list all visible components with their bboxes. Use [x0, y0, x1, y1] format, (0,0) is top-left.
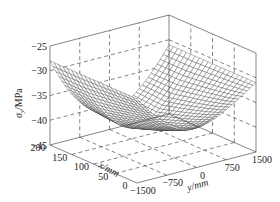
y-axis-label: y/mm — [185, 176, 210, 193]
tick-label: −30 — [31, 65, 47, 76]
tick-label: 150 — [52, 152, 67, 163]
surface-plot: −25−30−35−40−45050100150200−1500−7500750… — [0, 0, 280, 202]
tick-label: −25 — [31, 41, 47, 52]
tick-label: 200 — [31, 142, 46, 153]
tick-label: −40 — [31, 115, 47, 126]
tick-label: −1500 — [130, 185, 156, 196]
tick-label: −750 — [162, 177, 183, 188]
tick-label: −35 — [31, 90, 47, 101]
tick-label: 0 — [123, 180, 128, 191]
surface-mesh — [50, 45, 256, 131]
z-axis-label: σy/MPa — [13, 88, 26, 118]
tick-label: 100 — [74, 161, 89, 172]
tick-label: 750 — [225, 162, 240, 173]
tick-label: 1500 — [252, 154, 272, 165]
